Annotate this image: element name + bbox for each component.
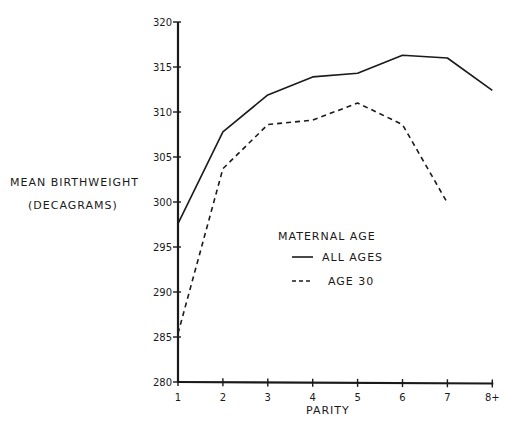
legend: MATERNAL AGE ALL AGES AGE 30 bbox=[278, 230, 383, 288]
x-tick-label: 1 bbox=[175, 392, 181, 403]
y-tick-label: 295 bbox=[153, 242, 172, 253]
legend-entry-all-ages: ALL AGES bbox=[322, 251, 383, 264]
x-axis-line bbox=[177, 382, 493, 384]
y-tick-label: 300 bbox=[153, 197, 172, 208]
y-tick-label: 305 bbox=[153, 152, 172, 163]
series-line-age-30 bbox=[178, 103, 447, 333]
y-axis: 280285290295300305310315320 bbox=[153, 17, 181, 388]
x-axis-title: PARITY bbox=[306, 404, 350, 417]
y-tick-label: 310 bbox=[153, 107, 172, 118]
x-tick-label: 6 bbox=[399, 392, 405, 403]
x-tick-label: 5 bbox=[354, 392, 360, 403]
y-tick-label: 280 bbox=[153, 377, 172, 388]
x-axis: 12345678+ bbox=[175, 378, 500, 403]
x-tick-label: 3 bbox=[265, 392, 271, 403]
legend-entry-age-30: AGE 30 bbox=[328, 275, 374, 288]
x-tick-label: 8+ bbox=[485, 392, 500, 403]
y-axis-title: MEAN BIRTHWEIGHT bbox=[10, 176, 139, 189]
x-tick-label: 2 bbox=[220, 392, 226, 403]
x-tick-label: 7 bbox=[444, 392, 450, 403]
legend-title: MATERNAL AGE bbox=[278, 230, 376, 243]
y-tick-label: 320 bbox=[153, 17, 172, 28]
y-tick-label: 285 bbox=[153, 332, 172, 343]
chart-canvas: 280285290295300305310315320 12345678+ ME… bbox=[0, 0, 520, 443]
y-tick-label: 315 bbox=[153, 62, 172, 73]
y-axis-unit: (DECAGRAMS) bbox=[28, 199, 118, 212]
y-tick-label: 290 bbox=[153, 287, 172, 298]
x-tick-label: 4 bbox=[310, 392, 316, 403]
series-layer bbox=[178, 55, 492, 333]
